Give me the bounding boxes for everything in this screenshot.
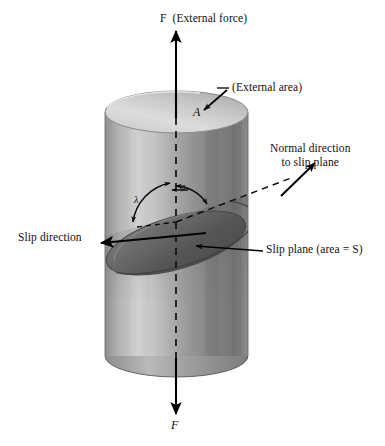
figure-canvas — [0, 0, 385, 446]
normal-direction-line1: Normal direction — [270, 142, 350, 156]
slip-plane-label: Slip plane (area = S) — [266, 243, 363, 257]
normal-direction-line2: to slip plane — [270, 156, 350, 170]
slip-direction-label: Slip direction — [18, 231, 82, 245]
force-bottom-label: F — [171, 418, 178, 432]
external-area-label: (External area) — [232, 81, 302, 95]
slip-plane-figure: F (External force) (External area) A Nor… — [0, 0, 385, 446]
force-top-text: (External force) — [172, 12, 247, 24]
area-symbol-label: A — [193, 105, 200, 119]
slip-plane-prefix: Slip plane (area = — [266, 243, 352, 255]
normal-direction-label: Normal direction to slip plane — [270, 142, 350, 169]
force-top-label: F (External force) — [160, 12, 247, 26]
slip-plane-suffix: ) — [359, 243, 363, 255]
phi-angle-symbol: φ — [180, 181, 186, 192]
lambda-angle-symbol: λ — [134, 194, 138, 205]
